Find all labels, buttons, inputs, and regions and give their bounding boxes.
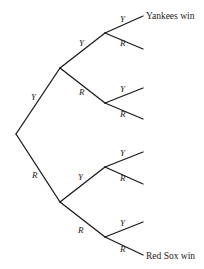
branch-root-to-Y xyxy=(16,68,60,134)
branch-label: R xyxy=(119,244,126,254)
branch-label: Y xyxy=(31,92,37,102)
branch-label: R xyxy=(119,173,126,183)
branch-label: Y xyxy=(120,84,126,94)
branch-label: Y xyxy=(120,14,126,24)
outcome-label: Red Sox win xyxy=(146,251,195,261)
branch-label: R xyxy=(78,87,85,97)
branch-label: R xyxy=(119,38,126,48)
outcome-labels: Yankees winRed Sox win xyxy=(146,11,195,261)
outcome-label: Yankees win xyxy=(146,11,195,21)
branch-label: Y xyxy=(120,218,126,228)
branch-label: R xyxy=(31,170,38,180)
probability-tree-diagram: YRYRYRYRYRYRYR Yankees winRed Sox win xyxy=(0,0,204,269)
branch-label: Y xyxy=(79,38,85,48)
branch-labels: YRYRYRYRYRYRYR xyxy=(31,14,126,254)
branch-root-to-R xyxy=(16,134,60,202)
branch-label: Y xyxy=(120,148,126,158)
branch-label: R xyxy=(77,225,84,235)
branch-Y-to-YR xyxy=(60,68,105,103)
branch-label: Y xyxy=(78,172,84,182)
branch-label: R xyxy=(119,109,126,119)
